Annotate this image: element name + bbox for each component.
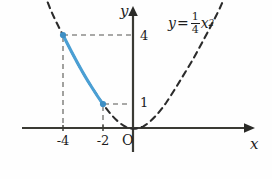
point-minus4-4	[60, 32, 66, 38]
y-axis-arrow	[128, 6, 138, 16]
x-tick-label-minus-4: -4	[52, 134, 74, 147]
coordinate-plot	[0, 0, 272, 179]
fraction-denominator: 4	[191, 23, 200, 36]
equation-variable: x	[201, 16, 209, 30]
equation-fraction: 1 4	[191, 11, 200, 35]
equation-lhs: y	[168, 16, 176, 30]
x-tick-label-minus-2: -2	[92, 134, 114, 147]
y-tick-label-1: 1	[140, 96, 148, 109]
y-tick-label-4: 4	[140, 29, 148, 42]
x-axis	[22, 123, 255, 133]
y-axis	[128, 6, 138, 152]
guide-lines	[63, 35, 131, 127]
x-axis-arrow	[244, 123, 255, 133]
equation-exponent: 2	[209, 19, 215, 28]
equation-equals-sign: =	[177, 16, 189, 30]
fraction-numerator: 1	[191, 11, 200, 23]
origin-label: O	[122, 133, 133, 147]
equation-annotation: y = 1 4 x 2	[168, 11, 214, 35]
y-axis-label: y	[120, 4, 128, 19]
point-minus2-1	[100, 101, 106, 107]
x-axis-label: x	[250, 137, 258, 152]
graph-figure: y x 4 1 -4 -2 O y = 1 4 x 2	[0, 0, 272, 179]
highlighted-arc	[63, 35, 103, 104]
